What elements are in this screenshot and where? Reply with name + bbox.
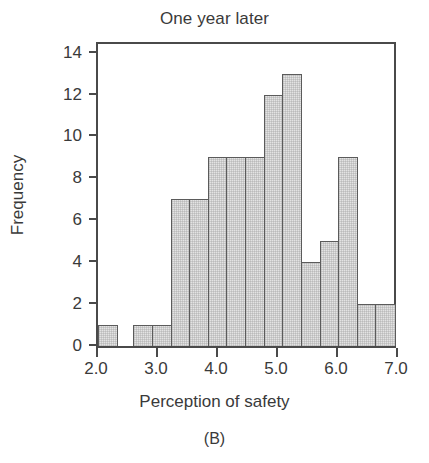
histogram-bar	[226, 157, 246, 346]
x-tick	[336, 348, 338, 357]
x-tick	[96, 348, 98, 357]
x-tick	[156, 348, 158, 357]
y-axis-title: Frequency	[8, 42, 30, 348]
histogram-bar	[375, 304, 395, 346]
x-axis-ticks: 2.03.04.05.06.07.0	[96, 348, 396, 390]
histogram-bar	[189, 199, 209, 346]
x-tick	[276, 348, 278, 357]
bars-layer	[98, 44, 394, 346]
y-tick: 10	[89, 134, 98, 136]
y-tick-label: 12	[63, 85, 82, 105]
x-tick-label: 3.0	[144, 359, 168, 379]
x-tick-label: 5.0	[264, 359, 288, 379]
y-tick-label: 0	[73, 336, 82, 356]
histogram-bar	[301, 262, 321, 346]
y-tick-label: 2	[73, 294, 82, 314]
histogram-bar	[357, 304, 377, 346]
y-tick: 0	[89, 344, 98, 346]
histogram-bar	[338, 157, 358, 346]
histogram-bar	[208, 157, 228, 346]
histogram-bar	[245, 157, 265, 346]
y-tick-label: 14	[63, 43, 82, 63]
x-tick-label: 4.0	[204, 359, 228, 379]
plot-area: 02468101214	[96, 42, 396, 348]
histogram-bar	[98, 325, 118, 346]
histogram-bar	[171, 199, 191, 346]
histogram-bar	[152, 325, 172, 346]
histogram-bar	[282, 74, 302, 346]
y-tick-label: 10	[63, 126, 82, 146]
histogram-figure: One year later Frequency 02468101214 2.0…	[0, 0, 429, 463]
y-tick: 6	[89, 218, 98, 220]
x-tick-label: 7.0	[384, 359, 408, 379]
panel-caption: (B)	[0, 430, 429, 448]
x-tick-label: 2.0	[84, 359, 108, 379]
histogram-bar	[133, 325, 153, 346]
x-axis-title: Perception of safety	[0, 392, 429, 412]
y-tick: 4	[89, 260, 98, 262]
y-tick-label: 6	[73, 210, 82, 230]
chart-title: One year later	[0, 9, 429, 29]
y-tick: 8	[89, 176, 98, 178]
histogram-bar	[264, 95, 284, 347]
x-tick	[216, 348, 218, 357]
y-tick-label: 4	[73, 252, 82, 272]
y-tick: 2	[89, 302, 98, 304]
x-tick	[396, 348, 398, 357]
histogram-bar	[320, 241, 340, 346]
y-tick: 12	[89, 93, 98, 95]
y-tick: 14	[89, 51, 98, 53]
y-tick-label: 8	[73, 168, 82, 188]
x-tick-label: 6.0	[324, 359, 348, 379]
